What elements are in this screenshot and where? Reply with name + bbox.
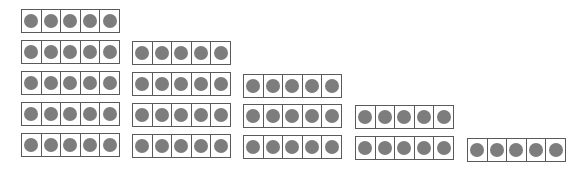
frame-cell (356, 106, 376, 128)
counter-dot-icon (325, 79, 339, 93)
counter-dot-icon (214, 46, 228, 60)
counter-dot-icon (437, 110, 451, 124)
frame-cell (172, 104, 192, 126)
counter-dot-icon (155, 108, 169, 122)
counter-dot-icon (214, 108, 228, 122)
counter-dot-icon (305, 79, 319, 93)
counter-dot-icon (103, 76, 117, 90)
counter-dot-icon (83, 45, 97, 59)
frame-cell (22, 72, 42, 94)
five-frame (132, 72, 231, 96)
counter-dot-icon (103, 45, 117, 59)
counter-dot-icon (470, 143, 484, 157)
frame-cell (153, 104, 173, 126)
frame-cell (283, 75, 303, 97)
frame-cell (22, 41, 42, 63)
frame-cell (376, 137, 396, 159)
counter-dot-icon (135, 46, 149, 60)
frame-cell (42, 103, 62, 125)
frame-cell (22, 10, 42, 32)
frame-cell (211, 73, 230, 95)
frame-cell (192, 42, 212, 64)
counter-dot-icon (325, 140, 339, 154)
frame-cell (81, 103, 101, 125)
five-frame (355, 136, 454, 160)
counter-dot-icon (83, 76, 97, 90)
counter-dot-icon (24, 14, 38, 28)
frame-cell (415, 137, 435, 159)
counter-dot-icon (103, 138, 117, 152)
frame-cell (244, 136, 264, 158)
frame-cell (322, 136, 341, 158)
frame-cell (100, 72, 119, 94)
frame-cell (22, 103, 42, 125)
counter-dot-icon (325, 109, 339, 123)
five-frame (21, 9, 120, 33)
counter-dot-icon (83, 107, 97, 121)
frame-cell (468, 139, 488, 161)
frame-cell (244, 75, 264, 97)
counter-dot-icon (417, 141, 431, 155)
counter-dot-icon (490, 143, 504, 157)
frame-cell (61, 72, 81, 94)
counter-dot-icon (305, 109, 319, 123)
frame-cell (172, 42, 192, 64)
frame-cell (81, 41, 101, 63)
counter-dot-icon (214, 139, 228, 153)
frame-cell (133, 42, 153, 64)
frame-cell (527, 139, 547, 161)
counter-dot-icon (549, 143, 563, 157)
five-frame (132, 134, 231, 158)
counter-dot-icon (103, 107, 117, 121)
counter-dot-icon (397, 110, 411, 124)
counter-dot-icon (266, 140, 280, 154)
counter-dot-icon (155, 139, 169, 153)
frame-cell (434, 106, 453, 128)
five-frame (21, 40, 120, 64)
counter-dot-icon (24, 45, 38, 59)
frame-cell (303, 75, 323, 97)
counter-dot-icon (174, 139, 188, 153)
counter-dot-icon (285, 140, 299, 154)
frame-cell (192, 135, 212, 157)
counter-dot-icon (83, 138, 97, 152)
counter-dot-icon (378, 110, 392, 124)
frame-cell (264, 105, 284, 127)
frame-cell (488, 139, 508, 161)
counter-dot-icon (246, 140, 260, 154)
counter-dot-icon (194, 77, 208, 91)
counter-dot-icon (214, 77, 228, 91)
counter-dot-icon (63, 14, 77, 28)
counter-dot-icon (437, 141, 451, 155)
counter-dot-icon (155, 77, 169, 91)
five-frame (21, 133, 120, 157)
counter-dot-icon (305, 140, 319, 154)
frame-cell (100, 103, 119, 125)
frame-cell (434, 137, 453, 159)
counter-dot-icon (135, 108, 149, 122)
counter-dot-icon (44, 138, 58, 152)
five-frame (132, 103, 231, 127)
counter-dot-icon (24, 138, 38, 152)
frame-cell (61, 134, 81, 156)
frame-cell (133, 73, 153, 95)
frame-cell (211, 104, 230, 126)
counter-dot-icon (135, 77, 149, 91)
frame-cell (415, 106, 435, 128)
frame-cell (153, 73, 173, 95)
counter-dot-icon (63, 45, 77, 59)
counter-dot-icon (24, 76, 38, 90)
counter-dot-icon (24, 107, 38, 121)
frame-cell (211, 135, 230, 157)
frame-cell (133, 104, 153, 126)
frame-cell (153, 135, 173, 157)
frame-cell (61, 103, 81, 125)
frame-cell (100, 134, 119, 156)
frame-cell (61, 10, 81, 32)
counter-dot-icon (83, 14, 97, 28)
counter-dot-icon (194, 108, 208, 122)
frame-cell (153, 42, 173, 64)
frame-cell (22, 134, 42, 156)
five-frame (132, 41, 231, 65)
counter-dot-icon (155, 46, 169, 60)
